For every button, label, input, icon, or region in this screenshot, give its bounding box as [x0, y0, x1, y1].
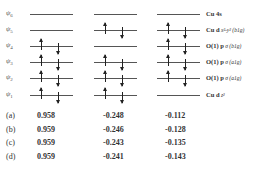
orbital-label: Cu d z² [206, 91, 225, 98]
table-row: (d)0.959-0.241-0.143 [0, 152, 259, 164]
spin-down-arrow-icon [58, 75, 59, 86]
psi-label: ψ2 [6, 73, 13, 82]
orbital-label: O(1) p σ (a1g) [206, 58, 241, 65]
spin-down-arrow-icon [122, 27, 123, 38]
psi-label: ψ4 [6, 41, 13, 50]
spin-up-arrow-icon [41, 88, 42, 99]
spin-up-arrow-icon [41, 55, 42, 66]
table-row: (c)0.959-0.243-0.135 [0, 138, 259, 150]
energy-level-line [30, 46, 73, 47]
spin-down-arrow-icon [185, 75, 186, 86]
row-label: (a) [6, 111, 15, 120]
energy-level-line [94, 14, 137, 15]
spin-up-arrow-icon [168, 23, 169, 34]
psi-label: ψ1 [6, 90, 13, 99]
psi-label: ψ3 [6, 57, 13, 66]
coefficient-value: -0.143 [165, 152, 186, 161]
spin-down-arrow-icon [122, 75, 123, 86]
energy-level-line [94, 62, 137, 63]
energy-level-line [30, 14, 73, 15]
spin-down-arrow-icon [58, 43, 59, 54]
energy-level-line [157, 14, 200, 15]
spin-up-arrow-icon [41, 39, 42, 50]
spin-down-arrow-icon [58, 92, 59, 103]
spin-down-arrow-icon [58, 59, 59, 70]
row-label: (d) [6, 152, 15, 161]
coefficient-value: -0.128 [165, 125, 186, 134]
energy-level-line [157, 62, 200, 63]
coefficient-value: 0.959 [37, 125, 55, 134]
spin-up-arrow-icon [168, 39, 169, 50]
psi-label: ψ6 [6, 9, 13, 18]
energy-level-line [94, 46, 137, 47]
energy-level-line [94, 30, 137, 31]
table-row: (b)0.959-0.246-0.128 [0, 125, 259, 137]
coefficient-value: -0.246 [103, 125, 124, 134]
energy-level-line [157, 78, 200, 79]
table-row: (a)0.958-0.248-0.112 [0, 111, 259, 123]
orbital-label: O(1) p σ (b1g) [206, 42, 241, 49]
psi-label: ψ5 [6, 25, 13, 34]
spin-up-arrow-icon [168, 55, 169, 66]
energy-level-line [157, 46, 200, 47]
spin-up-arrow-icon [105, 88, 106, 99]
spin-down-arrow-icon [185, 59, 186, 70]
row-label: (b) [6, 125, 15, 134]
coefficient-value: -0.135 [165, 138, 186, 147]
spin-up-arrow-icon [105, 23, 106, 34]
energy-level-line [157, 95, 200, 96]
spin-down-arrow-icon [185, 43, 186, 54]
orbital-label: Cu d x²-y² (b1g) [206, 26, 244, 33]
spin-up-arrow-icon [105, 71, 106, 82]
orbital-label: Cu 4s [206, 10, 222, 17]
energy-level-line [94, 95, 137, 96]
coefficient-value: 0.959 [37, 152, 55, 161]
energy-level-line [30, 78, 73, 79]
coefficient-value: 0.959 [37, 138, 55, 147]
spin-up-arrow-icon [105, 55, 106, 66]
coefficient-value: -0.243 [103, 138, 124, 147]
orbital-label: O(1) p σ (a1g) [206, 74, 241, 81]
spin-down-arrow-icon [122, 92, 123, 103]
energy-level-line [94, 78, 137, 79]
spin-up-arrow-icon [168, 71, 169, 82]
energy-level-line [30, 30, 73, 31]
coefficient-value: -0.248 [103, 111, 124, 120]
energy-level-line [157, 30, 200, 31]
spin-down-arrow-icon [185, 27, 186, 38]
spin-up-arrow-icon [41, 71, 42, 82]
energy-level-line [30, 62, 73, 63]
row-label: (c) [6, 138, 15, 147]
coefficient-value: -0.112 [165, 111, 185, 120]
coefficient-value: 0.958 [37, 111, 55, 120]
energy-level-line [30, 95, 73, 96]
coefficient-value: -0.241 [103, 152, 124, 161]
spin-down-arrow-icon [122, 59, 123, 70]
